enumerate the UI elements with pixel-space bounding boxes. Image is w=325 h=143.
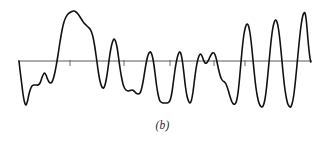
figure-container: (b): [0, 0, 325, 143]
figure-caption: (b): [0, 119, 325, 131]
